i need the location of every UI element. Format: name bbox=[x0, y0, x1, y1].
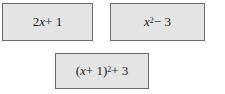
expression-card-linear[interactable]: 2x + 1 bbox=[2, 3, 93, 41]
expression-card-composite[interactable]: (x + 1)2 + 3 bbox=[55, 53, 149, 89]
expression-tail: + 3 bbox=[111, 63, 128, 79]
expression-card-quadratic[interactable]: x2 − 3 bbox=[110, 3, 205, 41]
expression-tail: − 3 bbox=[154, 14, 171, 30]
expression-inner: + 1) bbox=[86, 63, 107, 79]
expression-variable: x bbox=[144, 14, 150, 30]
expression-tail: + 1 bbox=[45, 14, 62, 30]
